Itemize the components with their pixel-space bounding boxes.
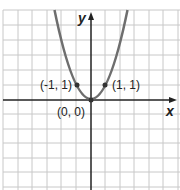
point-0-0 [89, 98, 94, 103]
point-neg1-1 [75, 83, 80, 88]
point-1-1 [103, 83, 108, 88]
point-label-neg1-1: (-1, 1) [40, 78, 72, 92]
x-axis-label: x [165, 103, 175, 119]
y-axis-label: y [77, 10, 87, 26]
coordinate-plane: y x (-1, 1) (1, 1) (0, 0) [0, 0, 180, 190]
point-label-0-0: (0, 0) [57, 105, 85, 119]
point-label-1-1: (1, 1) [112, 78, 140, 92]
y-axis-arrow-icon [88, 12, 94, 20]
axes [3, 18, 172, 190]
